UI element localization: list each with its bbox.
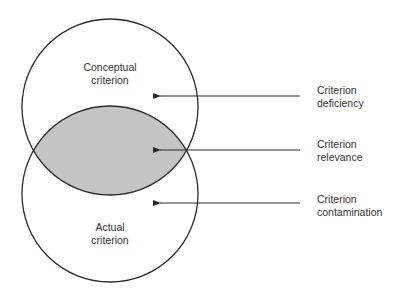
criterion-deficiency-label: Criterion deficiency	[317, 84, 401, 110]
conceptual-criterion-line1: Conceptual	[60, 61, 160, 74]
relevance-line2: relevance	[317, 151, 401, 164]
criterion-relevance-label: Criterion relevance	[317, 138, 401, 164]
overlap-region	[22, 106, 198, 282]
actual-criterion-line1: Actual	[60, 221, 160, 234]
deficiency-line2: deficiency	[317, 97, 401, 110]
conceptual-criterion-line2: criterion	[60, 74, 160, 87]
deficiency-line1: Criterion	[317, 84, 401, 97]
criterion-contamination-label: Criterion contamination	[317, 193, 401, 219]
actual-criterion-line2: criterion	[60, 234, 160, 247]
conceptual-criterion-label: Conceptual criterion	[60, 61, 160, 87]
relevance-line1: Criterion	[317, 138, 401, 151]
contamination-line2: contamination	[317, 206, 401, 219]
contamination-line1: Criterion	[317, 193, 401, 206]
actual-criterion-label: Actual criterion	[60, 221, 160, 247]
